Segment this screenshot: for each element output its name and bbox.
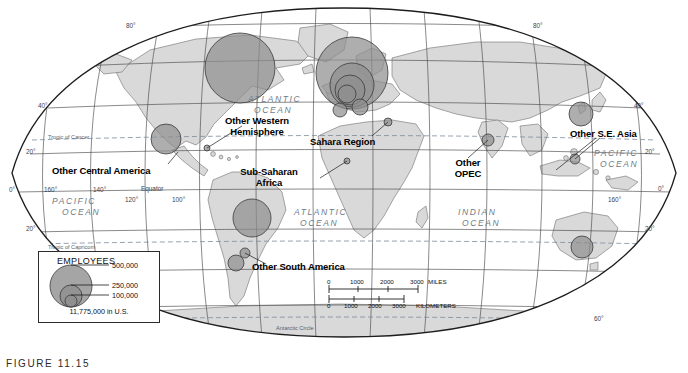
grat-lat-80-top: 80°: [126, 22, 136, 29]
scale-km-3000: 3000: [392, 302, 406, 309]
symbol-japan[interactable]: [569, 102, 593, 126]
leader-sub-saharan-africa: [320, 161, 347, 178]
legend-value-500k: 500,000: [112, 261, 138, 270]
scale-unit-kilometers: KILOMETERS: [416, 302, 456, 309]
symbol-canada[interactable]: [205, 33, 275, 103]
grat-lat-20-left: 20°: [26, 148, 36, 155]
legend-value-100k: 100,000: [112, 291, 138, 300]
scale-mile-1000: 1000: [350, 278, 364, 285]
grat-equator: Equator: [141, 185, 163, 192]
ocean-label-indian: INDIAN OCEAN: [458, 207, 500, 229]
region-label-other-se-asia: Other S.E. Asia: [570, 129, 637, 140]
region-label-other-central-america: Other Central America: [52, 166, 150, 177]
grat-lon-100-w: 100°: [172, 196, 185, 203]
region-label-sahara-region: Sahara Region: [310, 137, 375, 148]
legend-footnote: 11,775,000 in U.S.: [39, 307, 159, 316]
ocean-line-2: OCEAN: [600, 159, 638, 170]
ocean-line-1: PACIFIC: [594, 148, 638, 159]
scale-km-1000: 1000: [344, 302, 358, 309]
ocean-line-1: ATLANTIC: [294, 207, 347, 218]
ocean-line-1: ATLANTIC: [248, 94, 301, 105]
scale-mile-2000: 2000: [380, 278, 394, 285]
grat-lon-140-w: 140°: [93, 186, 106, 193]
scale-unit-miles: MILES: [428, 278, 447, 285]
region-label-other-western-hemisphere: Other Western Hemisphere: [214, 116, 300, 137]
grat-lat-40-left: 40°: [38, 102, 48, 109]
region-label-other-south-america: Other South America: [252, 262, 345, 273]
ocean-line-1: PACIFIC: [52, 196, 100, 207]
grat-lat-80-top-r: 80°: [533, 22, 543, 29]
ocean-label-atlantic-north: ATLANTIC OCEAN: [248, 94, 301, 116]
ocean-line-2: OCEAN: [300, 218, 347, 229]
ocean-label-atlantic-south: ATLANTIC OCEAN: [294, 207, 347, 229]
leader-se-asia-2: [556, 138, 596, 170]
tropic-of-capricorn-label: Tropic of Capricorn: [48, 244, 95, 250]
legend-value-250k: 250,000: [112, 281, 138, 290]
grat-lat-60-right: 60°: [594, 315, 604, 322]
symbol-argentina[interactable]: [228, 255, 244, 271]
leader-lines: [168, 122, 600, 264]
legend-circle-100k: [65, 295, 77, 307]
symbol-europe-small-1[interactable]: [333, 103, 347, 117]
tropic-of-cancer-label: Tropic of Cancer: [48, 134, 89, 140]
symbol-australia[interactable]: [571, 236, 593, 258]
grat-lon-0-left: 0°: [9, 186, 15, 193]
antarctic-circle-label: Antarctic Circle: [276, 325, 314, 331]
scale-km-0: 0: [327, 302, 330, 309]
map-legend[interactable]: EMPLOYEES 500,000 250,000 100,000 11,775…: [38, 251, 160, 323]
symbol-europe-ring-3[interactable]: [338, 85, 356, 103]
grat-lon-120-w: 120°: [125, 196, 138, 203]
leader-other-opec: [468, 140, 488, 158]
ocean-label-pacific-east: PACIFIC OCEAN: [594, 148, 638, 170]
grat-lon-160-w: 160°: [44, 186, 57, 193]
ocean-line-2: OCEAN: [254, 105, 301, 116]
map-scale-bar: 0 1000 2000 3000 MILES 0 1000 2000 3000 …: [326, 277, 448, 307]
scale-mile-0: 0: [327, 278, 330, 285]
grat-lat-20-s-right: 20°: [645, 225, 655, 232]
scale-mile-3000: 3000: [410, 278, 424, 285]
ocean-line-1: INDIAN: [458, 207, 500, 218]
grat-lon-160-e: 160°: [608, 196, 621, 203]
symbol-other-central-america[interactable]: [151, 124, 181, 154]
grat-lat-40-right: 40°: [634, 102, 644, 109]
scale-km-2000: 2000: [368, 302, 382, 309]
figure-page: Other Central America Other Western Hemi…: [0, 0, 688, 373]
figure-caption: FIGURE 11.15: [6, 358, 90, 369]
ocean-line-2: OCEAN: [62, 207, 100, 218]
symbol-brazil[interactable]: [233, 199, 271, 237]
leader-sahara-region: [372, 122, 388, 136]
region-label-sub-saharan-africa: Sub-Saharan Africa: [232, 167, 306, 188]
ocean-line-2: OCEAN: [462, 218, 500, 229]
grat-lat-0-right: 0°: [658, 185, 664, 192]
region-label-other-opec: Other OPEC: [448, 158, 488, 179]
grat-lat-20-s-left: 20°: [26, 225, 36, 232]
grat-lat-20-right: 20°: [645, 148, 655, 155]
ocean-label-pacific-west: PACIFIC OCEAN: [52, 196, 100, 218]
label-line-1: Other Western Hemisphere: [214, 116, 300, 137]
symbol-europe-small-2[interactable]: [352, 99, 368, 115]
